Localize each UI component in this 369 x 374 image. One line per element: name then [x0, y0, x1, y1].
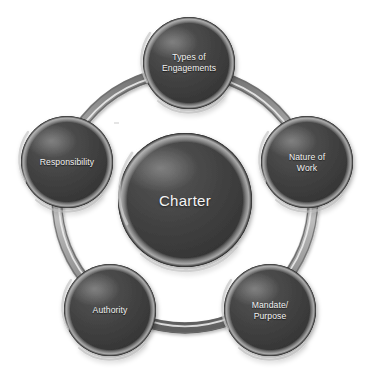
node-types-of-engagements[interactable]	[141, 17, 235, 113]
charter-ring-diagram: Charter Types of Engagements Nature of W…	[0, 0, 369, 374]
diagram-canvas	[0, 0, 369, 374]
node-authority[interactable]	[62, 264, 156, 360]
node-responsibility[interactable]	[19, 116, 113, 212]
node-mandate-purpose[interactable]	[222, 264, 316, 360]
node-nature-of-work[interactable]	[259, 116, 353, 212]
scan-artifact	[114, 122, 119, 124]
node-charter-center[interactable]	[118, 133, 252, 271]
